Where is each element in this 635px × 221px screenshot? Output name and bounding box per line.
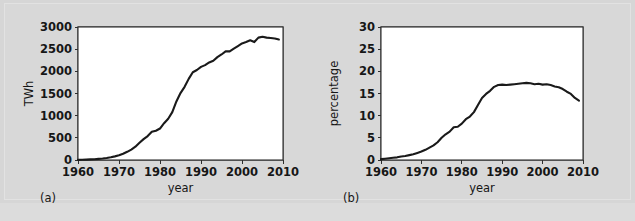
x-tick-label: 2000: [226, 165, 258, 179]
x-tick-label: 1960: [365, 165, 397, 179]
line-chart-twh: 0500100015002000250030001960197019801990…: [0, 0, 318, 221]
x-tick-label: 1970: [103, 165, 135, 179]
x-tick-label: 2010: [567, 165, 599, 179]
x-tick-label: 2000: [527, 165, 559, 179]
y-tick-label: 2500: [40, 42, 72, 56]
x-axis-title: year: [469, 181, 495, 195]
x-tick-label: 1990: [486, 165, 518, 179]
x-tick-label: 2010: [267, 165, 299, 179]
y-tick-label: 1000: [40, 109, 72, 123]
y-tick-label: 25: [359, 42, 375, 56]
panel-caption: (a): [40, 191, 56, 205]
figure-container: 0500100015002000250030001960197019801990…: [0, 0, 635, 221]
y-tick-label: 1500: [40, 87, 72, 101]
x-tick-label: 1960: [62, 165, 94, 179]
y-tick-label: 10: [359, 109, 375, 123]
y-tick-label: 5: [367, 131, 375, 145]
y-axis-title: TWh: [22, 81, 36, 108]
plot-frame: [381, 27, 583, 160]
x-tick-label: 1970: [405, 165, 437, 179]
line-chart-percentage: 051015202530196019701980199020002010year…: [318, 0, 635, 221]
y-tick-label: 2000: [40, 64, 72, 78]
panel-caption: (b): [343, 191, 359, 205]
x-axis-title: year: [168, 181, 194, 195]
y-tick-label: 500: [48, 131, 72, 145]
x-tick-label: 1980: [446, 165, 478, 179]
y-axis-title: percentage: [327, 61, 341, 126]
x-tick-label: 1990: [185, 165, 217, 179]
chart-panel-a: 0500100015002000250030001960197019801990…: [0, 0, 318, 221]
y-tick-label: 20: [359, 64, 375, 78]
y-tick-label: 3000: [40, 20, 72, 34]
chart-panel-b: 051015202530196019701980199020002010year…: [318, 0, 635, 221]
y-tick-label: 15: [359, 87, 375, 101]
x-tick-label: 1980: [144, 165, 176, 179]
y-tick-label: 30: [359, 20, 375, 34]
